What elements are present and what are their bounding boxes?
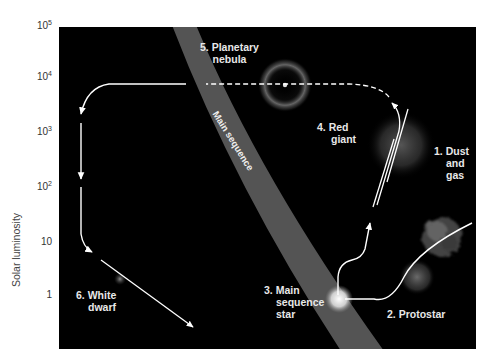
path-down-b [81, 187, 92, 252]
label-white-dwarf: 6. White dwarf [76, 289, 116, 313]
label-planetary-nebula: 5. Planetary nebula [200, 41, 259, 65]
dust-gas-cloud [422, 217, 462, 257]
path-to-white-dwarf [81, 84, 186, 114]
white-dwarf-glow [114, 273, 126, 285]
y-tick-label-10: 10 [22, 236, 52, 247]
label-red-giant: 4. Red giant [317, 121, 356, 145]
path-to-red-giant [338, 223, 370, 295]
red-giant-glow [367, 111, 435, 179]
y-tick-label-1e2: 102 [22, 180, 52, 192]
diagram-panel: 5. Planetary nebula 4. Red giant 1. Dust… [59, 27, 476, 349]
label-dust-and-gas: 1. Dust and gas [434, 145, 469, 181]
label-main-sequence-star: 3. Main sequence star [264, 284, 324, 320]
y-tick-label-1e4: 104 [22, 70, 52, 82]
y-tick-label-1: 1 [22, 289, 52, 300]
y-tick-label-1e3: 103 [22, 125, 52, 137]
y-tick-label-1e5: 105 [22, 19, 52, 31]
